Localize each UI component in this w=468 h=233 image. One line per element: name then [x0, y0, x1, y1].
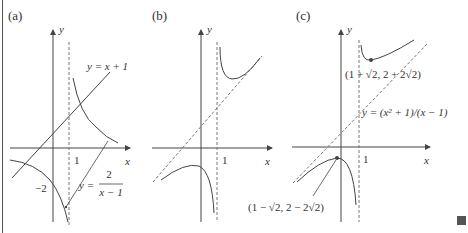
panel-a-curve-label-den: x − 1 — [98, 186, 122, 198]
panel-a-pointer-dot — [65, 206, 67, 208]
graphs-svg: (a) y x 1 −2 y = x + 1 y = 2 x − 1 — [0, 0, 468, 233]
figure: (a) y x 1 −2 y = x + 1 y = 2 x − 1 — [0, 0, 468, 233]
panel-b-x-label: x — [264, 155, 270, 167]
panel-a-line-y-x-plus-1 — [12, 72, 110, 178]
panel-c-label: (c) — [296, 8, 310, 23]
panel-c-y-label: y — [346, 23, 352, 35]
end-of-proof-mark — [457, 216, 466, 225]
panel-c-local-min-point — [369, 58, 373, 62]
panel-b-label: (b) — [152, 8, 167, 23]
panel-c-max-pointer-line — [313, 160, 336, 196]
panel-b-curve-lower — [161, 165, 214, 213]
panel-a-tick-1: 1 — [74, 154, 80, 166]
panel-a: (a) y x 1 −2 y = x + 1 y = 2 x − 1 — [8, 8, 130, 225]
panel-a-x-label: x — [124, 155, 130, 167]
panel-b-curve-upper — [220, 47, 260, 79]
panel-a-label: (a) — [8, 8, 22, 23]
panel-c-local-max-point — [335, 156, 339, 160]
panel-a-line-label: y = x + 1 — [86, 60, 128, 72]
panel-a-curve-label-prefix: y = — [78, 179, 94, 191]
panel-a-tick-minus2: −2 — [35, 182, 47, 194]
panel-c-tick-1: 1 — [363, 153, 369, 165]
panel-c-curve-lower — [297, 158, 356, 205]
panel-a-curve-label-num: 2 — [106, 168, 112, 180]
panel-a-y-label: y — [58, 23, 64, 35]
panel-b-y-label: y — [206, 23, 212, 35]
panel-c-max-label: (1 − √2, 2 − 2√2) — [248, 201, 324, 214]
panel-b-slant-asymptote — [153, 56, 262, 182]
panel-c: (c) y x 1 (1 + √2, 2 + 2√2) y = (x² + 1)… — [248, 8, 448, 222]
panel-c-min-label: (1 + √2, 2 + 2√2) — [345, 68, 421, 81]
panel-c-x-label: x — [423, 154, 429, 166]
panel-b-tick-1: 1 — [222, 154, 228, 166]
panel-c-curve-upper — [361, 40, 414, 60]
panel-c-curve-label: y = (x² + 1)/(x − 1) — [361, 106, 448, 119]
panel-b: (b) y x 1 — [152, 8, 272, 222]
